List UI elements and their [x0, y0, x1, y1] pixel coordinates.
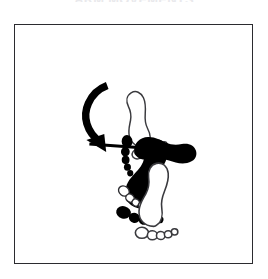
curved-arrow-shaft [86, 85, 108, 142]
figure-root: ARM MOVEMENTS [0, 0, 268, 279]
diagram-panel [14, 24, 253, 264]
curved-rotation-arrow [86, 85, 108, 151]
figure-title: ARM MOVEMENTS [0, 0, 268, 2]
diagram-canvas [15, 25, 252, 263]
